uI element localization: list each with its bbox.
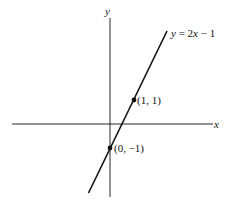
x-axis-label: x <box>213 118 219 130</box>
y-axis-label: y <box>104 5 110 17</box>
point-0-neg1 <box>108 146 113 151</box>
equation-mid: = 2 <box>176 27 193 39</box>
function-line <box>89 31 168 193</box>
graph-canvas: y x y = 2x − 1 (1, 1) (0, −1) <box>0 0 228 206</box>
equation-label: y = 2x − 1 <box>170 27 215 39</box>
point-1-label: (1, 1) <box>137 94 161 107</box>
point-2-label: (0, −1) <box>114 142 144 155</box>
equation-tail: − 1 <box>198 27 215 39</box>
point-1-1 <box>132 98 137 103</box>
